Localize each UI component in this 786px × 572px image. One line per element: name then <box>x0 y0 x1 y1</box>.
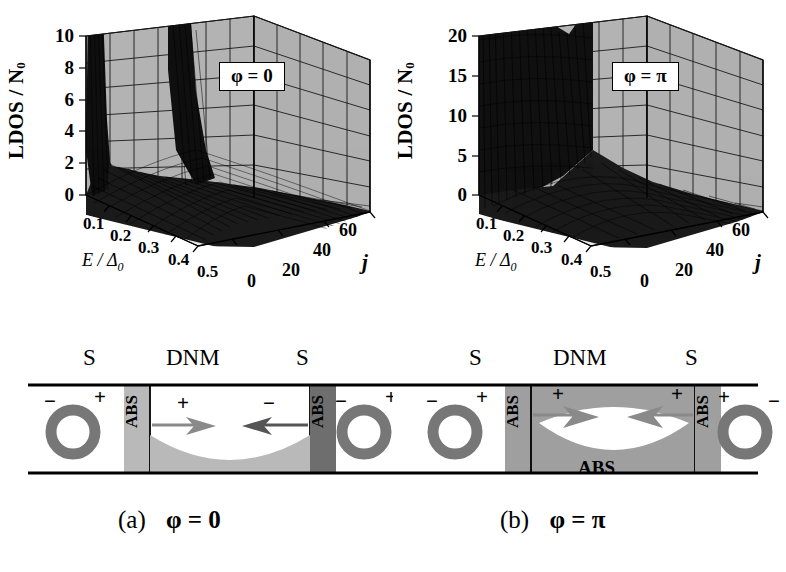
ztick-marks-b <box>472 36 479 195</box>
schem-b-abs-label-center: ABS <box>578 457 615 479</box>
xtick-a-2: 0.3 <box>138 238 159 258</box>
xtick-a-0: 0.1 <box>83 214 104 234</box>
xaxis-label-a: E / Δ0 <box>82 250 124 275</box>
schem-b-header-s-left: S <box>469 345 482 371</box>
ztick-b-3: 5 <box>415 145 467 167</box>
xtick-a-3: 0.4 <box>168 250 189 270</box>
xaxis-label-main-a: E / Δ <box>82 250 118 270</box>
zaxis-label-main-a: LDOS / N <box>4 69 28 159</box>
xtick-b-4: 0.5 <box>590 262 611 282</box>
caption-a-symbol: φ = 0 <box>166 506 221 533</box>
yaxis-label-b: j <box>755 250 761 275</box>
ytick-b-60: 60 <box>732 220 750 241</box>
ytick-a-0: 0 <box>247 271 256 292</box>
xaxis-label-b: E / Δ0 <box>475 250 517 275</box>
schem-a-sign-center-plus: + <box>177 391 189 416</box>
schematic-b: S DNM S − + + + + <box>393 345 786 505</box>
schem-a-header-dnm: DNM <box>166 345 220 371</box>
plot-panel-b: 20 15 10 5 0 LDOS / N0 0.1 0.2 0.3 0.4 0… <box>393 0 786 340</box>
ztick-b-2: 10 <box>415 105 467 127</box>
ytick-b-0: 0 <box>640 271 649 292</box>
schem-b-header-s-right: S <box>685 345 698 371</box>
schem-b-abs-label-right: ABS <box>693 395 723 428</box>
xtick-b-0: 0.1 <box>476 214 497 234</box>
xaxis-label-sub-a: 0 <box>118 260 124 274</box>
ztick-marks-a <box>79 36 86 195</box>
ztick-a-0: 10 <box>26 25 74 47</box>
zaxis-label-main-b: LDOS / N <box>393 69 417 159</box>
surface-plot-b <box>393 0 786 340</box>
zaxis-label-b: LDOS / N0 <box>393 62 418 159</box>
schematic-a: S DNM S <box>0 345 393 505</box>
yaxis-label-a: j <box>362 250 368 275</box>
ztick-a-4: 2 <box>26 152 74 174</box>
ytick-a-40: 40 <box>313 240 331 261</box>
ztick-a-1: 8 <box>26 57 74 79</box>
zaxis-label-sub-a: 0 <box>13 62 28 69</box>
ytick-a-60: 60 <box>339 220 357 241</box>
schem-b-header-dnm: DNM <box>553 345 607 371</box>
schem-a-sign-center-minus: − <box>263 391 275 416</box>
xtick-b-3: 0.4 <box>561 250 582 270</box>
ztick-b-4: 0 <box>415 184 467 206</box>
zaxis-label-a: LDOS / N0 <box>4 62 29 159</box>
xtick-a-1: 0.2 <box>110 226 131 246</box>
schem-b-abs-label-left: ABS <box>503 395 533 428</box>
schem-b-sign-left-minus: − <box>426 389 438 414</box>
schem-a-sign-left-minus: − <box>44 389 56 414</box>
caption-b-index: (b) <box>500 506 529 533</box>
ztick-a-2: 6 <box>26 89 74 111</box>
schem-b-sign-right-minus: − <box>768 389 780 414</box>
schem-a-abs-label-right: ABS <box>308 395 338 428</box>
ztick-a-5: 0 <box>26 184 74 206</box>
wall-back-right <box>254 16 370 212</box>
caption-a: (a) φ = 0 <box>118 506 221 534</box>
caption-a-index: (a) <box>118 506 146 533</box>
ztick-b-0: 20 <box>415 25 467 47</box>
schem-b-sign-center-left-plus: + <box>552 382 564 407</box>
caption-b: (b) φ = π <box>500 506 605 534</box>
xtick-b-2: 0.3 <box>531 238 552 258</box>
schem-b-sign-left-plus: + <box>476 385 488 410</box>
schem-b-sign-center-right-plus: + <box>671 382 683 407</box>
ytick-b-20: 20 <box>675 260 693 281</box>
xtick-a-4: 0.5 <box>197 262 218 282</box>
ztick-a-3: 4 <box>26 120 74 142</box>
phi-annotation-b: φ = π <box>612 62 679 91</box>
wall-back-right-b <box>647 16 763 212</box>
xaxis-label-main-b: E / Δ <box>475 250 511 270</box>
schem-a-sign-left-plus: + <box>94 385 106 410</box>
schem-a-header-s-right: S <box>296 345 309 371</box>
xtick-b-1: 0.2 <box>503 226 524 246</box>
plot-panel-a: 10 8 6 4 2 0 LDOS / N0 0.1 0.2 0.3 0.4 0… <box>0 0 393 340</box>
phi-annotation-a: φ = 0 <box>219 62 285 91</box>
schem-a-abs-label-left: ABS <box>122 395 152 428</box>
ytick-a-20: 20 <box>282 260 300 281</box>
schem-a-header-s-left: S <box>83 345 96 371</box>
caption-b-symbol: φ = π <box>549 506 605 533</box>
xaxis-label-sub-b: 0 <box>511 260 517 274</box>
ytick-b-40: 40 <box>706 240 724 261</box>
ztick-b-1: 15 <box>415 65 467 87</box>
figure-root: 10 8 6 4 2 0 LDOS / N0 0.1 0.2 0.3 0.4 0… <box>0 0 786 572</box>
zaxis-label-sub-b: 0 <box>402 62 417 69</box>
